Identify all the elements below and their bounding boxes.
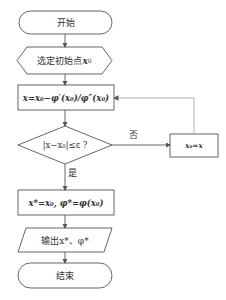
end-label: 结束: [18, 263, 112, 288]
init-label: 选定初始点x0: [17, 47, 112, 74]
no-edge-label: 否: [129, 128, 138, 141]
start-label: 开始: [19, 11, 112, 34]
result-label: x*=x₀, φ*=φ(x₀): [18, 190, 114, 215]
init-label-text: 选定初始点: [37, 54, 82, 67]
check-label: |x−x₀|≤ε ?: [18, 126, 112, 164]
output-label: 输出x*、φ*: [18, 228, 112, 252]
assign-label: x₀=x: [170, 134, 218, 157]
init-label-sub: 0: [88, 57, 92, 64]
yes-edge-label: 是: [68, 166, 77, 179]
update-label: x=x₀−φ′(x₀)/φ″(x₀): [18, 85, 114, 110]
